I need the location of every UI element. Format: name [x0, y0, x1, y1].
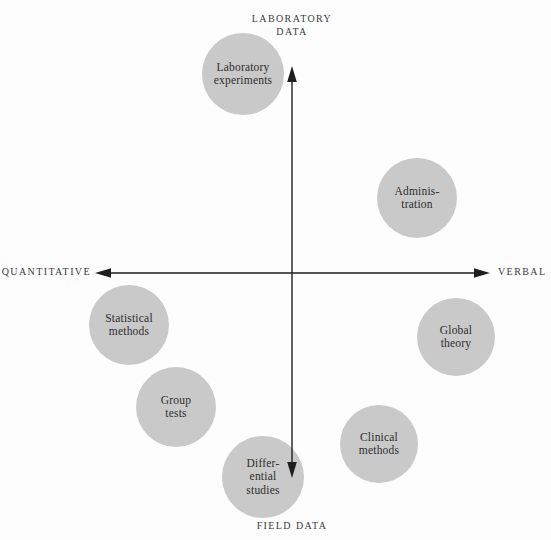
node-label-global-theory: Globaltheory [440, 324, 473, 351]
arrow-right-icon [474, 268, 490, 278]
node-global-theory: Globaltheory [417, 298, 495, 376]
axis-label-laboratory-line1: LABORATORY [252, 13, 333, 26]
node-label-differential-studies: Differ-entialstudies [246, 457, 279, 498]
axis-label-field-data: FIELD DATA [257, 520, 328, 531]
node-clinical-methods: Clinicalmethods [340, 405, 418, 483]
axis-label-verbal: VERBAL [498, 266, 546, 277]
node-label-laboratory-experiments: Laboratoryexperiments [214, 61, 272, 88]
node-label-group-tests: Grouptests [161, 394, 191, 421]
node-statistical-methods: Statisticalmethods [89, 285, 169, 365]
node-administration: Adminis-tration [377, 158, 457, 238]
axis-label-laboratory-data: LABORATORY DATA [252, 13, 333, 38]
node-label-clinical-methods: Clinicalmethods [359, 431, 399, 458]
arrow-left-icon [95, 268, 111, 278]
node-differential-studies: Differ-entialstudies [222, 436, 304, 518]
arrow-up-icon [287, 66, 297, 82]
node-label-administration: Adminis-tration [394, 185, 439, 212]
node-label-statistical-methods: Statisticalmethods [105, 312, 153, 339]
methods-quadrant-diagram: LaboratoryexperimentsAdminis-trationStat… [0, 0, 551, 540]
node-laboratory-experiments: Laboratoryexperiments [202, 33, 284, 115]
axis-label-laboratory-line2: DATA [252, 26, 333, 39]
axis-label-quantitative: QUANTITATIVE [2, 266, 91, 277]
node-group-tests: Grouptests [136, 367, 216, 447]
